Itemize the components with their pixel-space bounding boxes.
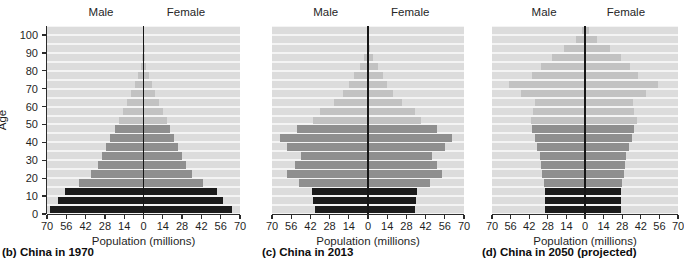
bar-female	[585, 197, 621, 204]
bar-male	[532, 72, 585, 79]
x-tick-label: 42	[419, 220, 431, 232]
bar-female	[368, 81, 387, 88]
panel-c: MaleFemale705642281401428425670Populatio…	[244, 0, 468, 270]
bar-female	[144, 117, 167, 124]
bar-male	[535, 134, 585, 141]
bar-female	[368, 143, 445, 150]
gender-header-row: MaleFemale	[272, 3, 464, 21]
y-tick-label: 90	[0, 47, 38, 59]
bar-male	[354, 72, 368, 79]
bar-female	[585, 206, 621, 213]
x-tick	[143, 215, 144, 219]
bar-female	[585, 45, 610, 52]
x-tick	[271, 215, 272, 219]
x-tick	[463, 215, 464, 219]
bar-male	[533, 108, 585, 115]
x-tick-label: 42	[195, 220, 207, 232]
y-axis-title: Age	[0, 110, 8, 130]
x-tick	[547, 215, 548, 219]
x-tick	[348, 215, 349, 219]
x-tick-label: 28	[400, 220, 412, 232]
y-tick	[42, 160, 46, 161]
bar-male	[545, 197, 585, 204]
bar-male	[315, 206, 368, 213]
x-tick	[406, 215, 407, 219]
bar-female	[144, 170, 192, 177]
x-tick	[85, 215, 86, 219]
bar-male	[545, 206, 585, 213]
panel-caption: (b) China in 1970	[2, 246, 94, 258]
bar-female	[368, 90, 393, 97]
x-tick	[622, 215, 623, 219]
x-tick-label: 42	[79, 220, 91, 232]
bar-male	[531, 117, 585, 124]
bar-female	[585, 63, 630, 70]
x-tick	[444, 215, 445, 219]
male-label: Male	[89, 6, 114, 18]
x-tick-label: 70	[41, 220, 53, 232]
bar-female	[368, 99, 402, 106]
female-label: Female	[607, 6, 645, 18]
bar-female	[585, 90, 646, 97]
bar-male	[535, 99, 585, 106]
x-tick-label: 28	[176, 220, 188, 232]
plot-background	[272, 26, 464, 214]
bar-female	[144, 81, 152, 88]
bar-male	[545, 188, 585, 195]
x-tick-label: 56	[285, 220, 297, 232]
bar-female	[585, 188, 621, 195]
bar-female	[144, 197, 224, 204]
bar-female	[585, 99, 633, 106]
x-tick-label: 0	[582, 220, 588, 232]
bar-male	[532, 125, 585, 132]
plot-area	[47, 26, 240, 214]
x-tick-label: 56	[653, 220, 665, 232]
bar-female	[368, 117, 421, 124]
x-tick-label: 56	[504, 220, 516, 232]
bar-female	[585, 125, 634, 132]
bar-male	[313, 117, 368, 124]
x-tick-label: 14	[597, 220, 609, 232]
bar-female	[144, 188, 217, 195]
bar-male	[297, 125, 368, 132]
bar-male	[544, 179, 585, 186]
x-tick-label: 70	[486, 220, 498, 232]
bar-male	[540, 152, 585, 159]
x-tick-label: 14	[157, 220, 169, 232]
y-tick-label: 70	[0, 83, 38, 95]
x-tick	[104, 215, 105, 219]
gender-header-row: MaleFemale	[47, 3, 240, 21]
bar-male	[50, 206, 144, 213]
y-tick	[42, 142, 46, 143]
bar-male	[280, 134, 368, 141]
bar-female	[368, 63, 378, 70]
bar-female	[585, 179, 622, 186]
bar-male	[541, 161, 585, 168]
x-tick-label: 56	[439, 220, 451, 232]
center-axis-line	[367, 26, 368, 214]
y-tick	[42, 213, 46, 214]
x-tick-label: 0	[365, 220, 371, 232]
x-tick-label: 42	[304, 220, 316, 232]
bar-male	[119, 117, 144, 124]
y-tick-label: 30	[0, 154, 38, 166]
x-tick-label: 42	[635, 220, 647, 232]
bar-male	[106, 143, 143, 150]
bar-male	[334, 99, 368, 106]
bar-female	[144, 179, 203, 186]
bar-female	[368, 206, 415, 213]
bar-female	[144, 161, 187, 168]
bar-female	[585, 143, 629, 150]
panel-d: MaleFemale705642281401428425670Populatio…	[468, 0, 684, 270]
x-tick-label: 42	[523, 220, 535, 232]
x-tick-label: 28	[542, 220, 554, 232]
bar-male	[299, 179, 368, 186]
male-label: Male	[313, 6, 338, 18]
y-tick	[42, 70, 46, 71]
bar-female	[144, 90, 155, 97]
bar-male	[301, 152, 368, 159]
bar-female	[144, 99, 159, 106]
y-tick-label: 20	[0, 172, 38, 184]
x-tick	[124, 215, 125, 219]
x-tick-label: 28	[616, 220, 628, 232]
